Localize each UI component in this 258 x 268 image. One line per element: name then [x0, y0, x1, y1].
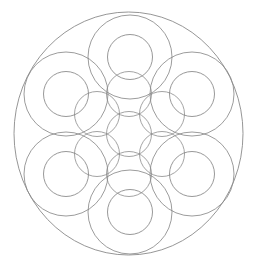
background-rect — [0, 0, 258, 268]
mandala-canvas — [0, 0, 258, 268]
mandala-svg — [0, 0, 258, 268]
